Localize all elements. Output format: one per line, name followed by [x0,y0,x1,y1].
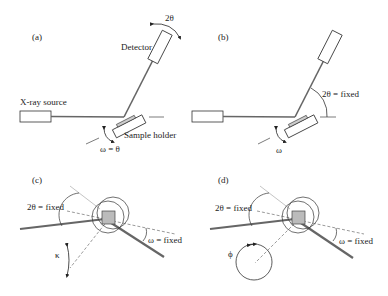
detector-label: Detector [121,43,152,52]
panel-d-diagram [210,186,364,280]
omega-fixed-arc [143,228,147,241]
omega-fixed-label: ω = fixed [148,236,182,245]
panel-c-label: (c) [32,176,42,185]
omega-arc-arrow [276,128,285,142]
xray-source-box [20,111,51,122]
dashed-guide [257,211,295,219]
kappa-arc-arrow [67,245,69,276]
two-theta-label: 2θ [165,14,174,23]
guide-line [70,186,100,209]
sample-square [292,211,305,224]
panel-b-diagram [192,30,342,144]
detector-box [318,30,342,64]
panel-a-label: (a) [32,33,42,42]
panel-a-diagram [20,24,180,144]
omega-fixed-label: ω = fixed [339,237,373,246]
two-theta-fixed-label: 2θ = fixed [215,204,252,213]
diffracted-beam [124,60,153,117]
phi-circle [236,244,272,280]
reference-line [258,138,270,144]
xray-source-label: X-ray source [20,98,67,107]
incident-beam [223,117,295,118]
omega-label: ω [276,146,282,155]
omega-arc-arrow [104,128,113,142]
dashed-guide [70,220,108,268]
omega-fixed-arc [333,228,337,241]
reference-line [86,138,99,144]
dashed-guide [255,220,298,263]
diffracted-beam [295,60,324,117]
omega-theta-label: ω = θ [100,145,120,154]
sample-holder-label: Sample holder [124,131,176,140]
two-theta-fixed-label: 2θ = fixed [322,90,359,99]
incident-beam [51,117,124,118]
two-theta-fixed-label: 2θ = fixed [27,203,64,212]
panel-b-label: (b) [218,33,229,42]
phi-label: ϕ [228,250,233,259]
dashed-guide [67,211,105,219]
xray-source-box [192,111,223,122]
guide-line [260,186,290,209]
kappa-label: κ [55,251,60,260]
panel-c-diagram [20,186,175,276]
sample-square [102,211,115,224]
panel-d-label: (d) [218,176,229,185]
